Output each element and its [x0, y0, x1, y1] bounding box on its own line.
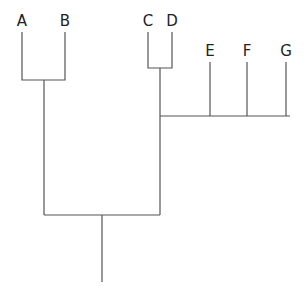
taxon-label-b: B	[60, 12, 70, 30]
taxon-label-a: A	[17, 12, 28, 30]
clade-ab-branches	[22, 32, 65, 80]
taxon-label-g: G	[280, 42, 292, 60]
taxon-label-e: E	[205, 42, 214, 60]
taxon-label-d: D	[166, 12, 178, 30]
dendrogram: A B C D E F G	[0, 0, 304, 289]
taxon-label-c: C	[143, 12, 153, 30]
taxon-label-f: F	[243, 42, 252, 60]
clade-cd-branches	[148, 32, 172, 68]
